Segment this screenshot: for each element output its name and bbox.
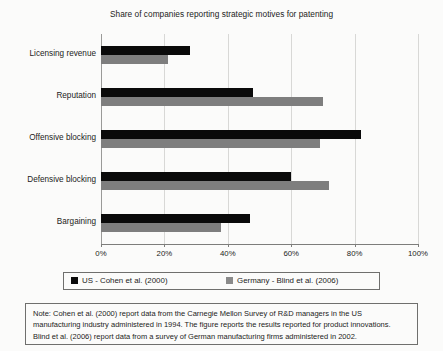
bar-germany bbox=[101, 181, 329, 190]
bar-group bbox=[101, 130, 418, 148]
note-line: manufacturing industry administered in 1… bbox=[33, 319, 410, 330]
x-tick-label: 80% bbox=[347, 249, 363, 258]
category-axis-labels: Licensing revenueReputationOffensive blo… bbox=[0, 34, 96, 244]
x-tick-mark bbox=[355, 244, 356, 247]
chart-title: Share of companies reporting strategic m… bbox=[0, 9, 443, 19]
category-label: Defensive blocking bbox=[0, 175, 96, 184]
x-tick-label: 0% bbox=[95, 249, 106, 258]
x-tick-mark bbox=[291, 244, 292, 247]
x-tick-label: 60% bbox=[283, 249, 299, 258]
note-line: Blind et al. (2006) report data from a s… bbox=[33, 331, 410, 342]
category-label: Offensive blocking bbox=[0, 133, 96, 142]
bar-group bbox=[101, 214, 418, 232]
bar-group bbox=[101, 88, 418, 106]
bars-layer bbox=[101, 34, 418, 244]
chart-figure: Share of companies reporting strategic m… bbox=[0, 0, 443, 351]
category-label: Bargaining bbox=[0, 217, 96, 226]
legend-entry-germany: Germany - Blind et al. (2006) bbox=[226, 276, 338, 285]
bar-germany bbox=[101, 55, 168, 64]
legend-label-germany: Germany - Blind et al. (2006) bbox=[237, 276, 338, 285]
x-tick-label: 100% bbox=[408, 249, 428, 258]
bar-group bbox=[101, 46, 418, 64]
legend-entry-us: US - Cohen et al. (2000) bbox=[71, 276, 168, 285]
x-tick-mark bbox=[164, 244, 165, 247]
x-axis-line bbox=[101, 244, 419, 245]
bar-us bbox=[101, 46, 190, 55]
bar-germany bbox=[101, 223, 221, 232]
x-tick-label: 40% bbox=[220, 249, 236, 258]
x-tick-label: 20% bbox=[157, 249, 173, 258]
bar-group bbox=[101, 172, 418, 190]
legend-swatch-germany-icon bbox=[226, 277, 233, 284]
x-tick-mark bbox=[101, 244, 102, 247]
plot-area bbox=[101, 34, 418, 244]
note-box: Note: Cohen et al. (2000) report data fr… bbox=[25, 303, 418, 345]
bar-us bbox=[101, 214, 250, 223]
bar-us bbox=[101, 130, 361, 139]
chart-legend: US - Cohen et al. (2000) Germany - Blind… bbox=[63, 272, 380, 290]
bar-germany bbox=[101, 97, 323, 106]
category-label: Licensing revenue bbox=[0, 49, 96, 58]
x-tick-mark bbox=[228, 244, 229, 247]
legend-label-us: US - Cohen et al. (2000) bbox=[82, 276, 168, 285]
bar-germany bbox=[101, 139, 320, 148]
legend-swatch-us-icon bbox=[71, 277, 78, 284]
bar-us bbox=[101, 88, 253, 97]
note-line: Note: Cohen et al. (2000) report data fr… bbox=[33, 308, 410, 319]
category-label: Reputation bbox=[0, 91, 96, 100]
x-tick-mark bbox=[418, 244, 419, 247]
bar-us bbox=[101, 172, 291, 181]
gridline bbox=[418, 34, 419, 244]
